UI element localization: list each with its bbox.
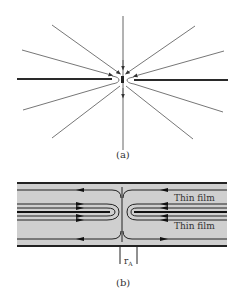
vortex-core xyxy=(121,76,124,83)
panel-b: Thin film Thin film rA (b) xyxy=(17,183,227,288)
panel-b-label: (b) xyxy=(116,277,130,288)
thin-film-label-top: Thin film xyxy=(174,193,215,203)
diagram-canvas: (a) xyxy=(0,0,241,299)
panel-a-label: (a) xyxy=(116,149,130,160)
panel-a: (a) xyxy=(17,16,228,160)
thin-film-label-bottom: Thin film xyxy=(174,221,215,231)
dimension-label: rA xyxy=(124,256,133,267)
